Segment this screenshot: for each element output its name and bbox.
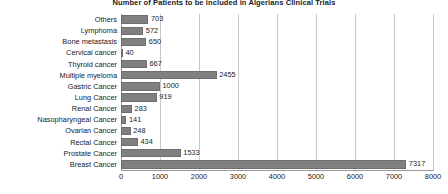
bar [121,138,138,146]
category-label: Lung Cancer [0,92,117,103]
x-tick-label-2000: 2000 [191,172,207,181]
bar [121,49,123,57]
bar-value-label: 2455 [219,71,235,79]
bar-value-label: 40 [126,49,134,57]
category-label: Renal Cancer [0,103,117,114]
bar-value-label: 283 [135,105,147,113]
category-label: Cervical cancer [0,47,117,58]
bar-row: Multiple myeloma2455 [0,70,448,81]
bar-row: Ovarian Cancer248 [0,125,448,136]
bar [121,71,217,79]
category-label: Prostate Cancer [0,148,117,159]
bar-value-label: 248 [133,127,145,135]
x-tick-label-6000: 6000 [347,172,363,181]
bar [121,15,148,23]
bar-value-label: 1533 [183,149,199,157]
x-tick-label-5000: 5000 [308,172,324,181]
chart-title: Number of Patients to be included in Alg… [0,0,448,7]
bar-with-value: 650 [121,38,161,46]
bar-row: Rectal Cancer434 [0,137,448,148]
bar-row: Thyroid cancer667 [0,59,448,70]
category-label: Gastric Cancer [0,81,117,92]
bar-value-label: 1000 [163,82,179,90]
bar-with-value: 572 [121,27,158,35]
category-label: Thyroid cancer [0,59,117,70]
bar-value-label: 919 [159,93,171,101]
category-label: Ovarian Cancer [0,125,117,136]
bar-row: Breast Cancer7317 [0,159,448,170]
x-tick-label-0: 0 [119,172,123,181]
bar-with-value: 434 [121,138,153,146]
category-label: Multiple myeloma [0,70,117,81]
bar-value-label: 650 [149,38,161,46]
category-label: Bone metastasis [0,36,117,47]
bar-row: Lymphoma572 [0,25,448,36]
x-tick-label-4000: 4000 [269,172,285,181]
bar-with-value: 283 [121,105,147,113]
bar-with-value: 667 [121,60,162,68]
bar-with-value: 40 [121,49,134,57]
category-label: Rectal Cancer [0,137,117,148]
x-tick-label-7000: 7000 [386,172,402,181]
bar [121,127,131,135]
bar [121,38,146,46]
bar-value-label: 434 [140,138,152,146]
x-tick-label-1000: 1000 [152,172,168,181]
bar-row: Others703 [0,14,448,25]
bar-value-label: 141 [129,116,141,124]
bar [121,27,143,35]
bar-with-value: 248 [121,127,146,135]
bar [121,82,160,90]
bar-row: Cervical cancer40 [0,47,448,58]
category-label: Others [0,14,117,25]
bar-with-value: 1000 [121,82,179,90]
bar [121,160,406,168]
category-label: Breast Cancer [0,159,117,170]
bar [121,60,147,68]
bar-value-label: 703 [151,15,163,23]
bar-chart: Number of Patients to be included in Alg… [0,0,448,194]
bar-with-value: 703 [121,15,163,23]
bar-row: Gastric Cancer1000 [0,81,448,92]
bar-with-value: 1533 [121,149,200,157]
bar-with-value: 141 [121,116,141,124]
bar-row: Prostate Cancer1533 [0,148,448,159]
bar [121,105,132,113]
x-tick-label-8000: 8000 [425,172,441,181]
category-label: Lymphoma [0,25,117,36]
bar-row: Renal Cancer283 [0,103,448,114]
x-axis-line [121,170,434,171]
bar-rows: Others703Lymphoma572Bone metastasis650Ce… [0,14,448,170]
bar-with-value: 919 [121,93,172,101]
bar-value-label: 572 [146,27,158,35]
category-label: Nasopharyngeal Cancer [0,114,117,125]
bar [121,149,181,157]
bar-row: Nasopharyngeal Cancer141 [0,114,448,125]
bar-value-label: 7317 [409,160,425,168]
bar-row: Bone metastasis650 [0,36,448,47]
bar [121,93,157,101]
bar-value-label: 667 [150,60,162,68]
x-tick-label-3000: 3000 [230,172,246,181]
bar-row: Lung Cancer919 [0,92,448,103]
bar-with-value: 2455 [121,71,236,79]
bar [121,116,126,124]
x-axis-tick-labels: 010002000300040005000600070008000 [0,172,448,186]
bar-with-value: 7317 [121,160,425,168]
